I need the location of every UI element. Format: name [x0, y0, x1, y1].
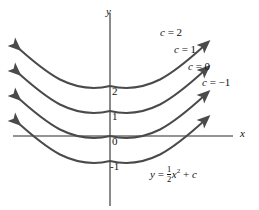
c-value: 1 — [191, 43, 197, 55]
equation-lhs: y — [150, 168, 155, 180]
one-half-fraction: 1 2 — [167, 165, 171, 183]
c-symbol: c — [202, 76, 207, 88]
curve-label-c-1: c = 1 — [174, 44, 196, 55]
parabola-family-figure: y x 2 1 0 -1 c = 2 c = 1 c = 0 c = −1 y … — [0, 0, 259, 210]
equation-plus: + — [183, 168, 189, 180]
equation-exponent: 2 — [177, 167, 181, 175]
equals-sign: = — [168, 26, 174, 38]
figure-canvas — [0, 0, 259, 210]
y-tick-label-1: 1 — [112, 111, 118, 122]
x-axis-label: x — [240, 128, 245, 139]
c-value: 0 — [205, 60, 211, 72]
curve-label-c-0: c = 0 — [188, 61, 210, 72]
y-tick-label-2: 2 — [112, 86, 118, 97]
fraction-numerator: 1 — [167, 165, 171, 174]
equals-sign: = — [182, 43, 188, 55]
curve-label-c-2: c = 2 — [160, 27, 182, 38]
axes-group — [13, 13, 233, 206]
equals-sign: = — [196, 60, 202, 72]
c-value: −1 — [219, 76, 231, 88]
c-symbol: c — [174, 43, 179, 55]
y-tick-label-minus-1: -1 — [110, 161, 119, 172]
equation-label: y = 1 2 x2 + c — [150, 165, 197, 183]
equals-sign: = — [210, 76, 216, 88]
fraction-denominator: 2 — [167, 174, 171, 184]
y-axis-label: y — [106, 6, 111, 17]
equation-constant: c — [192, 168, 197, 180]
equation-equals: = — [158, 168, 164, 180]
y-tick-label-0: 0 — [112, 136, 118, 147]
c-symbol: c — [188, 60, 193, 72]
c-value: 2 — [177, 26, 183, 38]
curve-label-c-minus-1: c = −1 — [202, 77, 230, 88]
